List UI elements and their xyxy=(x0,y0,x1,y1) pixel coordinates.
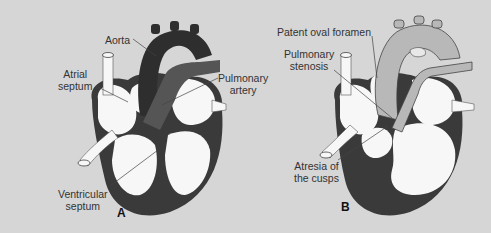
label-pulmonary-artery-line1: Pulmonary xyxy=(218,72,268,84)
panel-letter-a: A xyxy=(117,206,126,220)
label-aorta: Aorta xyxy=(105,34,130,46)
label-ventricular-septum-line1: Ventricular xyxy=(58,188,108,200)
label-atresia-line2: the cusps xyxy=(294,172,339,184)
heart-a-illustration xyxy=(78,21,226,215)
heart-diagram-figure: Aorta Atrial septum Pulmonary artery Ven… xyxy=(0,0,491,233)
heart-b-illustration xyxy=(320,16,474,215)
label-ventricular-septum-line2: septum xyxy=(58,200,108,212)
label-pulmonary-stenosis-line2: stenosis xyxy=(284,60,334,72)
label-atrial-septum: Atrial septum xyxy=(58,68,92,92)
label-ventricular-septum: Ventricular septum xyxy=(58,188,108,212)
label-pulmonary-artery-line2: artery xyxy=(218,84,268,96)
panel-letter-b: B xyxy=(341,200,350,214)
label-patent-oval-foramen: Patent oval foramen xyxy=(277,26,371,38)
label-pulmonary-stenosis: Pulmonary stenosis xyxy=(284,48,334,72)
label-atrial-septum-line1: Atrial xyxy=(58,68,92,80)
label-atresia-of-the-cusps: Atresia of the cusps xyxy=(294,160,339,184)
label-atresia-line1: Atresia of xyxy=(294,160,339,172)
label-pulmonary-artery: Pulmonary artery xyxy=(218,72,268,96)
label-pulmonary-stenosis-line1: Pulmonary xyxy=(284,48,334,60)
label-atrial-septum-line2: septum xyxy=(58,80,92,92)
